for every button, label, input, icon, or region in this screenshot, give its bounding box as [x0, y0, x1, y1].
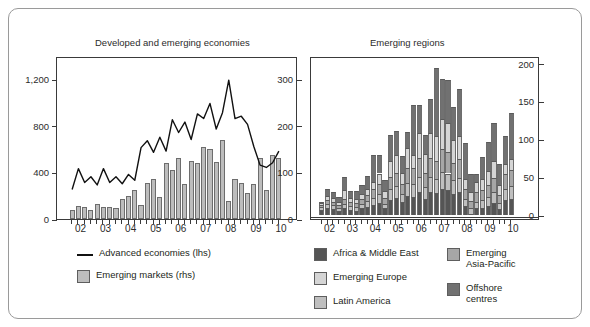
- x-tick-mark: [77, 220, 78, 224]
- bar-segment: [359, 199, 364, 204]
- bar-segment: [371, 155, 376, 182]
- bar-segment: [336, 211, 341, 216]
- table-row: [457, 56, 462, 219]
- bar-segment: [445, 123, 450, 152]
- x-tick-mark: [418, 220, 419, 224]
- bar-segment: [491, 203, 496, 215]
- y-tick-label: 800: [9, 121, 49, 132]
- bar-segment: [480, 208, 485, 216]
- x-tick-label: 03: [342, 223, 362, 234]
- table-row: [354, 56, 359, 219]
- bar-segment: [336, 202, 341, 205]
- bar-segment: [440, 79, 445, 119]
- bar-segment: [348, 210, 353, 215]
- bar-segment: [382, 180, 387, 191]
- bar-segment: [325, 189, 330, 196]
- x-tick-mark: [493, 220, 494, 224]
- bar-segment: [325, 208, 330, 215]
- color-swatch-icon: [77, 270, 90, 283]
- bar-segment: [342, 190, 347, 199]
- x-tick-mark: [476, 220, 477, 224]
- y-tick-label: 0: [9, 214, 49, 225]
- color-swatch-icon: [314, 296, 327, 309]
- bar-segment: [417, 105, 422, 133]
- x-tick-mark: [121, 220, 122, 224]
- x-tick-mark: [481, 220, 482, 224]
- bar-segment: [359, 185, 364, 194]
- bar-segment: [405, 148, 410, 168]
- bar-segment: [348, 191, 353, 198]
- bar-segment: [434, 136, 439, 160]
- x-tick-mark: [321, 220, 322, 224]
- bar-segment: [451, 140, 456, 163]
- table-row: [468, 56, 473, 219]
- x-tick-mark: [159, 220, 160, 224]
- bar-segment: [411, 184, 416, 197]
- bar-segment: [319, 210, 324, 215]
- x-tick-mark: [390, 220, 391, 224]
- x-tick-mark: [234, 220, 235, 224]
- bar-segment: [331, 192, 336, 198]
- x-tick-mark: [153, 220, 154, 224]
- bar-segment: [423, 187, 428, 198]
- x-tick-mark: [240, 220, 241, 224]
- legend-label: Emerging markets (rhs): [96, 269, 195, 280]
- y-tick-label: 0: [501, 210, 534, 221]
- x-tick-label: 02: [319, 223, 339, 234]
- bar-segment: [474, 174, 479, 182]
- x-tick-mark: [265, 220, 266, 224]
- table-row: [359, 56, 364, 219]
- table-row: [486, 56, 491, 219]
- table-row: [382, 56, 387, 219]
- table-row: [434, 56, 439, 219]
- x-tick-mark: [196, 220, 197, 224]
- bar-segment: [365, 195, 370, 201]
- bar-segment: [400, 184, 405, 194]
- bar-segment: [423, 135, 428, 154]
- legend-label: Offshore centres: [466, 282, 502, 304]
- x-tick-mark: [355, 220, 356, 224]
- bar-segment: [342, 204, 347, 209]
- x-tick-label: 09: [480, 223, 500, 234]
- bar-segment: [394, 198, 399, 215]
- bar-segment: [417, 158, 422, 177]
- x-tick-label: 05: [146, 223, 166, 234]
- bar-segment: [451, 107, 456, 140]
- x-tick-mark: [90, 220, 91, 224]
- x-tick-mark: [436, 220, 437, 224]
- bar-segment: [445, 174, 450, 191]
- bar-segment: [486, 171, 491, 185]
- bar-segment: [354, 199, 359, 203]
- x-tick-label: 06: [411, 223, 431, 234]
- x-tick-label: 10: [503, 223, 523, 234]
- bar-segment: [354, 203, 359, 207]
- bar-segment: [428, 177, 433, 192]
- bar-segment: [509, 159, 514, 170]
- x-tick-label: 04: [365, 223, 385, 234]
- x-tick-mark: [487, 220, 488, 224]
- bar-segment: [331, 209, 336, 215]
- legend-label: Advanced economies (lhs): [99, 247, 211, 258]
- bar-segment: [411, 168, 416, 184]
- legend-label: Emerging Asia-Pacific: [466, 247, 516, 269]
- bar-segment: [463, 179, 468, 190]
- x-tick-mark: [384, 220, 385, 224]
- bar-segment: [371, 182, 376, 190]
- bar-segment: [474, 192, 479, 201]
- x-tick-label: 07: [434, 223, 454, 234]
- bar-segment: [491, 123, 496, 161]
- bar-segment: [428, 99, 433, 133]
- bar-segment: [377, 194, 382, 203]
- bar-segment: [371, 198, 376, 206]
- table-row: [411, 56, 416, 219]
- bar-segment: [434, 161, 439, 179]
- bar-segment: [491, 161, 496, 178]
- color-swatch-icon: [314, 272, 327, 285]
- table-row: [388, 56, 393, 219]
- bar-segment: [503, 189, 508, 200]
- bar-segment: [365, 189, 370, 195]
- bar-segment: [377, 184, 382, 194]
- bar-segment: [451, 180, 456, 194]
- x-tick-mark: [134, 220, 135, 224]
- bar-segment: [486, 206, 491, 215]
